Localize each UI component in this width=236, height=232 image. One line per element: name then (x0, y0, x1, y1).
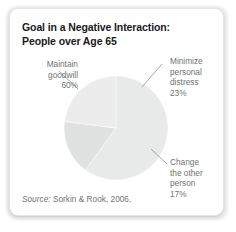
source-note-label: Source: (22, 195, 51, 204)
source-note: Source: Sorkin & Rook, 2006. (22, 195, 131, 204)
chart-card: Goal in a Negative Interaction: People o… (9, 8, 224, 216)
pie-label-maintain-goodwill: Maintain goodwill 60% (12, 59, 78, 91)
pie-label-change-other-person: Change the other person 17% (170, 157, 224, 199)
source-note-text: Sorkin & Rook, 2006. (51, 195, 132, 204)
leader-line-minimize-distress (142, 64, 162, 87)
pie-label-minimize-distress: Minimize personal distress 23% (170, 56, 224, 98)
figure-root: Goal in a Negative Interaction: People o… (0, 0, 236, 232)
